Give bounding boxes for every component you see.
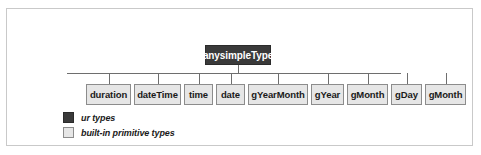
- node-leaf-label: gYearMonth: [251, 89, 304, 100]
- node-leaf-duration: duration: [86, 84, 131, 105]
- node-leaf-gmonth: gMonth: [425, 84, 466, 105]
- legend-label-ur-types: ur types: [81, 113, 115, 123]
- legend: ur types built-in primitive types: [63, 110, 175, 140]
- connector-leaf-vertical: [278, 73, 279, 84]
- connector-leaf-vertical: [407, 73, 408, 84]
- node-leaf-gyearmonth: gYearMonth: [248, 84, 308, 105]
- node-leaf-label: gYear: [315, 89, 340, 100]
- legend-item-ur-types: ur types: [63, 110, 175, 125]
- node-leaf-datetime: dateTime: [134, 84, 181, 105]
- type-hierarchy-diagram: anysimpleType durationdateTimetimedategY…: [0, 0, 481, 155]
- node-leaf-time: time: [184, 84, 213, 105]
- connector-leaf-vertical: [231, 73, 232, 84]
- node-root-anysimpletype: anysimpleType: [205, 45, 271, 65]
- node-leaf-gmonth: gMonth: [347, 84, 388, 105]
- node-leaf-label: gMonth: [429, 89, 463, 100]
- connector-leaf-vertical: [199, 73, 200, 84]
- node-leaf-gyear: gYear: [311, 84, 344, 105]
- legend-item-builtin-primitive-types: built-in primitive types: [63, 125, 175, 140]
- node-leaf-gday: gDay: [391, 84, 422, 105]
- node-leaf-label: gDay: [395, 89, 418, 100]
- node-leaf-label: duration: [90, 89, 127, 100]
- dark-swatch-icon: [63, 112, 74, 123]
- node-leaf-label: date: [221, 89, 240, 100]
- connector-horizontal-bus: [67, 73, 401, 74]
- node-leaf-label: gMonth: [351, 89, 385, 100]
- connector-leaf-vertical: [368, 73, 369, 84]
- node-leaf-date: date: [216, 84, 245, 105]
- connector-root-vertical: [238, 65, 239, 73]
- node-leaf-label: dateTime: [137, 89, 178, 100]
- connector-leaf-vertical: [446, 73, 447, 84]
- figure-container: anysimpleType durationdateTimetimedategY…: [0, 0, 481, 155]
- node-leaf-label: time: [189, 89, 208, 100]
- connector-leaf-vertical: [328, 73, 329, 84]
- node-root-label: anysimpleType: [203, 50, 273, 61]
- connector-leaf-vertical: [158, 73, 159, 84]
- legend-label-builtin-primitive-types: built-in primitive types: [81, 128, 175, 138]
- light-swatch-icon: [63, 127, 74, 138]
- connector-leaf-vertical: [109, 73, 110, 84]
